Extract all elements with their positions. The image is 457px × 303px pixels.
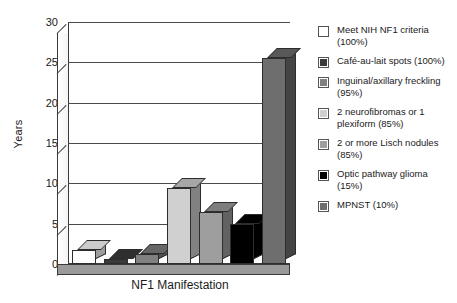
bar bbox=[135, 254, 159, 264]
legend-item[interactable]: 2 or more Lisch nodules (85%) bbox=[318, 137, 454, 161]
y-axis-tick-label: 0 bbox=[24, 258, 58, 270]
legend-item[interactable]: Inguinal/axillary freckling (95%) bbox=[318, 75, 454, 99]
bar-top-face bbox=[267, 48, 301, 58]
bar-front-face bbox=[72, 250, 96, 264]
legend-swatch-icon bbox=[318, 139, 329, 150]
bar bbox=[199, 212, 223, 264]
bar bbox=[72, 250, 96, 264]
plot-area bbox=[68, 22, 290, 264]
legend-item[interactable]: 2 neurofibromas or 1 plexiform (85%) bbox=[318, 106, 454, 130]
legend-swatch-icon bbox=[318, 26, 329, 37]
y-axis-tick-label: 25 bbox=[24, 56, 58, 68]
legend-item-label: Meet NIH NF1 criteria (100%) bbox=[337, 24, 454, 48]
legend-item-label: Café-au-lait spots (100%) bbox=[337, 55, 445, 67]
legend-swatch-icon bbox=[318, 201, 329, 212]
y-axis-tick-label: 10 bbox=[24, 177, 58, 189]
bar-front-face bbox=[262, 58, 286, 264]
legend-item[interactable]: Café-au-lait spots (100%) bbox=[318, 55, 454, 68]
y-axis-tick-label: 15 bbox=[24, 137, 58, 149]
bar-front-face bbox=[135, 254, 159, 264]
legend-item[interactable]: MPNST (10%) bbox=[318, 199, 454, 212]
chart-legend: Meet NIH NF1 criteria (100%)Café-au-lait… bbox=[318, 24, 454, 219]
plot-floor bbox=[57, 264, 290, 275]
bar-front-face bbox=[104, 259, 128, 264]
bar bbox=[230, 224, 254, 264]
legend-item[interactable]: Optic pathway glioma (15%) bbox=[318, 168, 454, 192]
bar-front-face bbox=[167, 188, 191, 264]
y-axis-tick-label: 5 bbox=[24, 218, 58, 230]
legend-swatch-icon bbox=[318, 170, 329, 181]
bar bbox=[167, 188, 191, 264]
chart-figure: Years 302520151050 NF1 Manifestation Mee… bbox=[0, 0, 457, 303]
y-axis-tick-label: 30 bbox=[24, 16, 58, 28]
bar bbox=[262, 58, 286, 264]
legend-item-label: 2 or more Lisch nodules (85%) bbox=[337, 137, 454, 161]
legend-swatch-icon bbox=[318, 77, 329, 88]
bar-side-face bbox=[286, 48, 296, 259]
y-axis-tick-label: 20 bbox=[24, 97, 58, 109]
bar-front-face bbox=[199, 212, 223, 264]
x-axis-title: NF1 Manifestation bbox=[60, 278, 300, 292]
legend-item-label: Optic pathway glioma (15%) bbox=[337, 168, 454, 192]
legend-item-label: MPNST (10%) bbox=[337, 199, 398, 211]
legend-item[interactable]: Meet NIH NF1 criteria (100%) bbox=[318, 24, 454, 48]
bar-front-face bbox=[230, 224, 254, 264]
legend-item-label: Inguinal/axillary freckling (95%) bbox=[337, 75, 454, 99]
y-axis-ticks: 302520151050 bbox=[22, 0, 58, 303]
legend-swatch-icon bbox=[318, 57, 329, 68]
legend-swatch-icon bbox=[318, 108, 329, 119]
legend-item-label: 2 neurofibromas or 1 plexiform (85%) bbox=[337, 106, 454, 130]
bar bbox=[104, 259, 128, 264]
bar-series bbox=[68, 22, 290, 264]
